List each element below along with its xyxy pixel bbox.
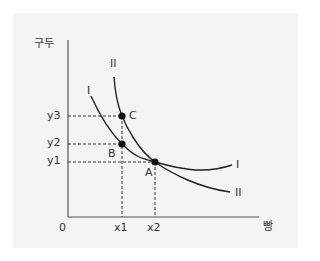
y-tick-y3: y3 (47, 110, 61, 121)
x-tick-x2: x2 (147, 222, 161, 233)
y-tick-y1: y1 (47, 155, 61, 166)
y-tick-y2: y2 (47, 137, 61, 148)
point-A (151, 158, 158, 165)
y-axis-label: 구두 (34, 38, 54, 49)
point-C (118, 112, 125, 119)
indifference-curve-II (114, 77, 230, 192)
x-axis-label: 빵 (263, 221, 273, 232)
point-B-label: B (108, 148, 116, 159)
curve-I-label-top: I (87, 85, 90, 96)
curve-II-label-right: II (235, 187, 242, 198)
curve-II-label-top: II (110, 58, 117, 69)
x-tick-x1: x1 (114, 222, 128, 233)
point-A-label: A (145, 167, 153, 178)
curve-I-label-right: I (236, 159, 239, 170)
origin-label: 0 (59, 222, 66, 233)
point-B (118, 140, 125, 147)
point-C-label: C (129, 110, 137, 121)
